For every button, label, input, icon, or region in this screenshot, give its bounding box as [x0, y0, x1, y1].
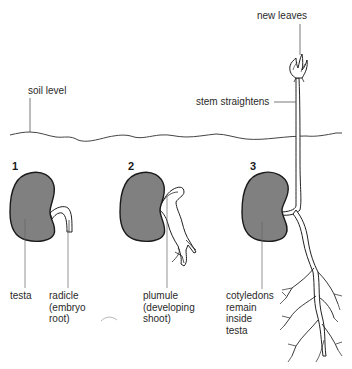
label-radicle: radicle (embryo root)	[49, 290, 86, 325]
soil-level-line	[10, 132, 342, 141]
seed-2-testa	[120, 172, 165, 241]
label-plumule: plumule (developing shoot)	[143, 290, 195, 325]
new-leaves	[290, 54, 307, 78]
label-stem-straightens: stem straightens	[196, 96, 269, 108]
label-soil-level: soil level	[28, 85, 66, 97]
label-cotyledons: cotyledons remain inside testa	[226, 290, 274, 336]
stage-number-2: 2	[128, 160, 134, 172]
label-new-leaves: new leaves	[257, 10, 307, 22]
seed-2-seedling	[160, 187, 196, 266]
seed-3-testa	[242, 172, 288, 241]
seed-1-testa	[10, 172, 55, 241]
stage-number-3: 3	[250, 160, 256, 172]
stray-mark	[101, 317, 117, 321]
stage-number-1: 1	[12, 160, 18, 172]
label-testa: testa	[10, 290, 32, 302]
